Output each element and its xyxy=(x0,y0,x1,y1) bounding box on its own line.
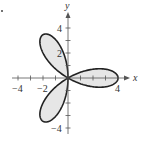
x-axis-label: x xyxy=(132,72,138,83)
polar-rose-chart: x y −4 −2 4 4 2 −4 xyxy=(0,0,144,142)
y-tick-label-neg4: −4 xyxy=(51,123,62,134)
x-tick-label-neg4: −4 xyxy=(12,83,23,94)
x-tick-label-neg2: −2 xyxy=(37,83,48,94)
x-tick-label-4: 4 xyxy=(115,83,120,94)
y-axis-label: y xyxy=(64,0,70,11)
label-dot xyxy=(1,10,3,12)
x-axis-arrow-icon xyxy=(124,76,130,81)
y-axis-arrow-icon xyxy=(66,12,71,18)
y-tick-label-2: 2 xyxy=(57,48,62,59)
y-tick-label-4: 4 xyxy=(57,23,62,34)
